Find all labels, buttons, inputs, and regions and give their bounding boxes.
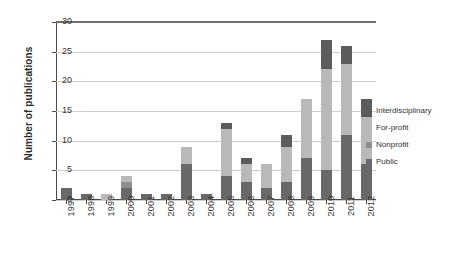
bar-segment-forprofit-2007[interactable] [261,164,272,188]
stacked-bar-2010[interactable] [321,40,332,200]
legend-swatch-nonprofit-icon [366,142,372,148]
x-label-slot-2001: 2001 [136,204,156,254]
x-label-slot-1998: 1998 [76,204,96,254]
stacked-bar-2009[interactable] [301,99,312,200]
x-label-slot-1999: 1999 [96,204,116,254]
x-tick-label-2010: 2010 [326,196,336,217]
x-tick-label-2012: 2012 [366,196,376,217]
x-label-slot-2008: 2008 [276,204,296,254]
stacked-bar-2011[interactable] [341,46,352,200]
x-tick-label-2004: 2004 [206,196,216,217]
bar-column-2002[interactable] [156,22,176,200]
legend-item-nonprofit[interactable]: Nonprofit [366,141,454,149]
y-tick-label-20: 20 [46,76,72,85]
stacked-bar-2003[interactable] [181,147,192,200]
bar-column-2001[interactable] [136,22,156,200]
legend-label-public: Public [376,158,398,166]
x-label-slot-2006: 2006 [236,204,256,254]
x-tick-label-2002: 2002 [166,196,176,217]
chart-legend: InterdisciplinaryFor-profitNonprofitPubl… [366,107,454,175]
bar-column-2010[interactable] [316,22,336,200]
y-tick-label-25: 25 [46,47,72,56]
y-tick-label-5: 5 [46,165,72,174]
x-tick-label-1998: 1998 [86,196,96,217]
bar-segment-forprofit-2003[interactable] [181,147,192,165]
legend-item-public[interactable]: Public [366,158,454,166]
stacked-bar-2006[interactable] [241,158,252,200]
x-tick-label-2003: 2003 [186,196,196,217]
legend-swatch-public-icon [366,159,372,165]
x-label-slot-2003: 2003 [176,204,196,254]
x-label-slot-1997: 1997 [56,204,76,254]
y-tick-label-15: 15 [46,106,72,115]
bar-segment-interdisciplinary-2010[interactable] [321,40,332,70]
x-label-slot-2011: 2011 [336,204,356,254]
plot-area [56,22,376,200]
bar-column-2011[interactable] [336,22,356,200]
y-tick-label-30: 30 [46,17,72,26]
y-tick-label-10: 10 [46,136,72,145]
x-tick-label-2009: 2009 [306,196,316,217]
x-tick-label-2000: 2000 [126,196,136,217]
x-tick-label-2007: 2007 [266,196,276,217]
stacked-bar-2008[interactable] [281,135,292,200]
x-label-slot-2005: 2005 [216,204,236,254]
legend-item-forprofit[interactable]: For-profit [366,124,454,132]
legend-swatch-interdisciplinary-icon [366,108,372,114]
legend-item-interdisciplinary[interactable]: Interdisciplinary [366,107,454,115]
bar-segment-public-2011[interactable] [341,135,352,200]
x-label-slot-2007: 2007 [256,204,276,254]
x-tick-label-2005: 2005 [226,196,236,217]
bar-column-2007[interactable] [256,22,276,200]
bar-segment-interdisciplinary-2011[interactable] [341,46,352,64]
bar-column-1999[interactable] [96,22,116,200]
x-label-slot-2000: 2000 [116,204,136,254]
bar-segment-forprofit-2011[interactable] [341,64,352,135]
bar-group [56,22,376,200]
bar-column-2009[interactable] [296,22,316,200]
x-label-slot-2010: 2010 [316,204,336,254]
x-tick-label-2011: 2011 [346,196,356,216]
stacked-bar-chart: Number of publications 051015202530 1997… [0,0,454,258]
legend-label-interdisciplinary: Interdisciplinary [376,107,432,115]
x-label-slot-2009: 2009 [296,204,316,254]
y-axis-title: Number of publications [23,24,34,184]
bar-segment-interdisciplinary-2008[interactable] [281,135,292,147]
bar-segment-forprofit-2005[interactable] [221,129,232,176]
bar-column-2004[interactable] [196,22,216,200]
stacked-bar-2005[interactable] [221,123,232,200]
bar-column-2006[interactable] [236,22,256,200]
x-label-slot-2012: 2012 [356,204,376,254]
x-label-slot-2002: 2002 [156,204,176,254]
legend-label-forprofit: For-profit [376,124,408,132]
bar-column-2008[interactable] [276,22,296,200]
legend-label-nonprofit: Nonprofit [376,141,408,149]
bar-segment-forprofit-2008[interactable] [281,147,292,183]
bar-column-1998[interactable] [76,22,96,200]
x-tick-label-1999: 1999 [106,196,116,217]
bar-segment-public-2009[interactable] [301,158,312,200]
x-tick-labels: 1997199819992000200120022003200420052006… [56,204,376,254]
x-tick-label-2008: 2008 [286,196,296,217]
x-tick-label-2001: 2001 [146,196,156,217]
bar-segment-forprofit-2009[interactable] [301,99,312,158]
bar-column-2000[interactable] [116,22,136,200]
bar-segment-forprofit-2010[interactable] [321,69,332,170]
legend-swatch-forprofit-icon [366,125,372,131]
x-label-slot-2004: 2004 [196,204,216,254]
bar-segment-forprofit-2006[interactable] [241,164,252,182]
x-tick-label-2006: 2006 [246,196,256,217]
x-tick-label-1997: 1997 [66,196,76,217]
bar-column-2003[interactable] [176,22,196,200]
bar-column-2005[interactable] [216,22,236,200]
